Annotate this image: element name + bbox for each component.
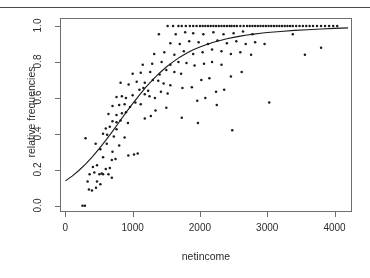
- y-tick-label: 0.0: [32, 190, 43, 220]
- x-axis-tick-labels: 01000200030004000: [0, 222, 370, 236]
- x-tick-label: 1000: [103, 222, 163, 233]
- x-axis-label: netincome: [60, 250, 352, 262]
- figure-root: 01000200030004000 0.00.20.40.60.81.0 rel…: [0, 0, 370, 278]
- x-tick-label: 4000: [305, 222, 365, 233]
- y-axis-label: relative frequencies: [25, 32, 37, 192]
- x-tick-label: 3000: [237, 222, 297, 233]
- plot-frame: [60, 18, 352, 212]
- x-tick-label: 2000: [170, 222, 230, 233]
- x-tick-label: 0: [35, 222, 95, 233]
